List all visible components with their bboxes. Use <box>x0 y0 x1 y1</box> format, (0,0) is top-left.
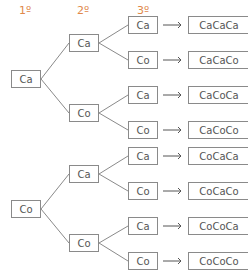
node-l3: Co <box>128 121 158 139</box>
node-l3: Ca <box>128 147 158 165</box>
result-box: CoCaCo <box>188 182 248 200</box>
node-l1-co: Co <box>11 200 41 218</box>
header-level-1: 1º <box>10 4 40 17</box>
node-l3: Ca <box>128 86 158 104</box>
node-l3: Co <box>128 182 158 200</box>
result-box: CoCoCo <box>188 252 248 270</box>
result-box: CaCaCo <box>188 51 248 69</box>
node-l2: Ca <box>69 165 99 183</box>
node-l2: Ca <box>69 34 99 52</box>
node-l2: Co <box>69 234 99 252</box>
result-box: CaCoCa <box>188 86 248 104</box>
node-l1-ca: Ca <box>11 70 41 88</box>
node-l3: Ca <box>128 217 158 235</box>
node-l3: Co <box>128 252 158 270</box>
result-box: CoCoCa <box>188 217 248 235</box>
node-l3: Ca <box>128 16 158 34</box>
header-level-2: 2º <box>68 4 98 17</box>
arrow-icons <box>163 22 181 264</box>
result-box: CoCaCa <box>188 147 248 165</box>
result-box: CaCaCa <box>188 16 248 34</box>
result-box: CaCoCo <box>188 121 248 139</box>
node-l2: Co <box>69 104 99 122</box>
node-l3: Co <box>128 51 158 69</box>
